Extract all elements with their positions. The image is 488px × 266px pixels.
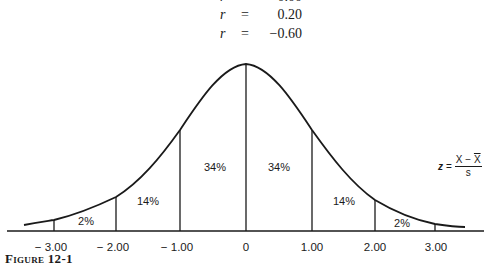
tick-label: 0 <box>243 241 249 253</box>
fraction: X − X s <box>455 154 482 179</box>
x-symbol: X <box>456 154 463 165</box>
z-score-formula: z = X − X s <box>438 154 482 179</box>
minus-sign: − <box>465 154 471 165</box>
tick-label: − 2.00 <box>97 241 129 253</box>
z-symbol: z <box>438 161 443 172</box>
denominator: s <box>466 167 471 179</box>
numerator: X − X <box>455 154 482 167</box>
normal-curve-diagram <box>0 0 488 266</box>
bell-curve <box>24 64 465 227</box>
region-label: 2% <box>78 215 94 227</box>
region-label: 14% <box>333 195 355 207</box>
region-label: 34% <box>204 161 226 173</box>
x-bar-symbol: X <box>474 154 481 165</box>
tick-label: 2.00 <box>364 241 386 253</box>
tick-label: − 1.00 <box>161 241 193 253</box>
tick-label: 3.00 <box>425 241 447 253</box>
region-label: 14% <box>137 195 159 207</box>
region-label: 34% <box>268 161 290 173</box>
equals-sign: = <box>446 161 452 172</box>
tick-label: 1.00 <box>301 241 323 253</box>
figure-caption: Figure 12-1 <box>5 251 73 266</box>
region-label: 2% <box>394 217 410 229</box>
